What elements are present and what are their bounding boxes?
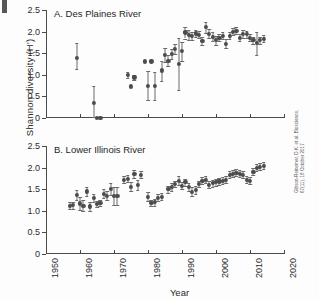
error-bar-cap (116, 187, 120, 188)
data-point (200, 39, 204, 43)
panel-a-des-plaines-river: A. Des Plaines River 00.51.01.52.02.5 (46, 10, 284, 118)
x-tick-label: 1980 (152, 258, 162, 278)
panel-a-x-tick (148, 114, 149, 118)
panel-b-y-tick (42, 168, 46, 169)
panel-a-y-tick-label: 2.5 (27, 5, 40, 15)
panel-b-y-tick-label: 2.5 (27, 141, 40, 151)
panel-b-x-tick (284, 250, 285, 254)
panel-b-lower-illinois-river: B. Lower Illinois River 00.51.01.52.02.5 (46, 146, 284, 254)
error-bar-cap (102, 198, 106, 199)
error-bar-cap (160, 200, 164, 201)
error-bar-cap (150, 206, 154, 207)
error-bar-cap (153, 72, 157, 73)
data-point (153, 84, 157, 88)
error-bar-cap (167, 193, 171, 194)
error-bar-cap (170, 191, 174, 192)
error-bar-cap (231, 35, 235, 36)
error-bar-cap (85, 196, 89, 197)
error-bar-cap (255, 55, 259, 56)
error-bar-cap (177, 176, 181, 177)
error-bar-cap (255, 171, 259, 172)
data-point (146, 194, 150, 198)
error-bar-cap (180, 189, 184, 190)
data-point (75, 55, 79, 59)
panel-a-y-tick (42, 118, 46, 119)
error-bar-cap (194, 194, 198, 195)
error-bar-cap (258, 44, 262, 45)
data-point (248, 178, 252, 182)
data-point (129, 185, 133, 189)
error-bar-cap (201, 184, 205, 185)
error-bar-cap (129, 182, 133, 183)
data-point (85, 189, 89, 193)
data-point (173, 47, 177, 51)
panel-b-y-tick-label: 1.0 (27, 206, 40, 216)
error-bar-cap (238, 41, 242, 42)
x-tick-label: 1950 (50, 258, 60, 278)
error-bar-cap (88, 211, 92, 212)
panel-b-y-tick-label: 2.0 (27, 163, 40, 173)
panel-b-y-tick (42, 146, 46, 147)
panel-a-plot-area: A. Des Plaines River 00.51.01.52.02.5 (46, 10, 284, 118)
error-bar-cap (146, 71, 150, 72)
panel-b-y-tick-label: 1.5 (27, 184, 40, 194)
error-bar-cap (190, 40, 194, 41)
citation-line-2: 67(11), 18 October 2017 (300, 143, 305, 193)
panel-a-x-axis (46, 117, 284, 118)
panel-b-y-tick-label: 0.5 (27, 227, 40, 237)
error-bar-cap (85, 187, 89, 188)
panel-b-y-tick (42, 189, 46, 190)
error-bar-cap (153, 206, 157, 207)
panel-a-y-tick-label: 1.5 (27, 48, 40, 58)
data-point (129, 84, 133, 88)
error-bar-cap (153, 100, 157, 101)
panel-a-y-tick (42, 75, 46, 76)
error-bar-cap (211, 187, 215, 188)
figure-citation: Gibson-Reinemer, D.K. et al. Bioscience,… (294, 63, 306, 193)
x-tick-label: 2020 (288, 258, 298, 278)
data-point (92, 101, 96, 105)
error-bar-cap (99, 206, 103, 207)
data-point (160, 68, 164, 72)
x-tick-label: 1960 (84, 258, 94, 278)
error-bar-cap (224, 48, 228, 49)
error-bar-cap (207, 188, 211, 189)
error-bar-cap (170, 59, 174, 60)
error-bar-cap (204, 22, 208, 23)
data-point (132, 172, 136, 176)
panel-b-y-tick-label: 0 (35, 249, 40, 259)
error-bar-cap (231, 177, 235, 178)
error-bar-cap (228, 178, 232, 179)
error-bar-cap (146, 192, 150, 193)
panel-b-y-axis (46, 146, 47, 254)
error-bar-cap (105, 191, 109, 192)
error-bar-cap (116, 205, 120, 206)
error-bar-cap (160, 81, 164, 82)
error-bar-cap (146, 100, 150, 101)
error-bar-cap (133, 80, 137, 81)
x-tick-label: 1990 (186, 258, 196, 278)
data-point (160, 194, 164, 198)
data-point (136, 183, 140, 187)
error-bar-cap (92, 86, 96, 87)
error-bar-cap (92, 194, 96, 195)
error-bar-cap (180, 42, 184, 43)
error-bar-cap (109, 183, 113, 184)
panel-a-y-tick-label: 2.0 (27, 27, 40, 37)
data-point (143, 59, 147, 63)
error-bar-cap (180, 61, 184, 62)
error-bar-cap (228, 39, 232, 40)
error-bar-cap (75, 190, 79, 191)
data-point (194, 188, 198, 192)
error-bar-cap (197, 187, 201, 188)
error-bar-cap (184, 27, 188, 28)
scan-edge-artifact (2, 0, 7, 13)
data-point (126, 73, 130, 77)
panel-a-y-tick-label: 0.5 (27, 91, 40, 101)
error-bar-cap (163, 48, 167, 49)
data-point (180, 49, 184, 53)
error-bar-cap (218, 41, 222, 42)
error-bar-cap (173, 54, 177, 55)
error-bar-cap (262, 169, 266, 170)
panel-a-y-axis (46, 10, 47, 118)
